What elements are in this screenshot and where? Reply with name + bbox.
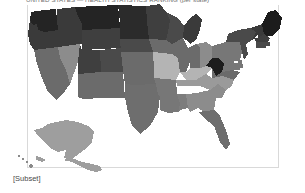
- state-RI[interactable]: [266, 42, 270, 46]
- state-AZ[interactable]: [78, 72, 103, 99]
- state-LA[interactable]: [158, 94, 180, 113]
- state-ME[interactable]: [262, 10, 282, 36]
- state-MI[interactable]: [183, 14, 202, 44]
- state-CO[interactable]: [100, 48, 123, 72]
- state-WY[interactable]: [82, 28, 121, 50]
- choropleth-map: [0, 0, 305, 193]
- us-states-map: [0, 0, 305, 193]
- state-MN[interactable]: [146, 4, 170, 40]
- state-HI-kauai[interactable]: [18, 155, 20, 157]
- state-HI-maui[interactable]: [26, 161, 29, 164]
- state-AK[interactable]: [34, 120, 94, 160]
- state-CT[interactable]: [256, 42, 266, 48]
- state-NM[interactable]: [101, 72, 125, 98]
- state-HI-hawaii[interactable]: [29, 164, 33, 168]
- state-AL[interactable]: [186, 93, 198, 112]
- state-AK-aleutian-2[interactable]: [36, 156, 46, 162]
- state-FL[interactable]: [198, 110, 230, 150]
- map-figure: UNITED STATES — HEALTH STATISTICS RANKIN…: [0, 0, 305, 193]
- state-SD[interactable]: [120, 22, 149, 39]
- state-OK[interactable]: [123, 70, 156, 85]
- state-TX[interactable]: [125, 84, 160, 134]
- state-ND[interactable]: [118, 5, 147, 22]
- state-KS[interactable]: [121, 52, 154, 70]
- state-NY[interactable]: [226, 28, 256, 44]
- state-NE[interactable]: [120, 39, 153, 52]
- state-IN[interactable]: [188, 44, 200, 68]
- state-HI-oahu[interactable]: [22, 158, 24, 160]
- subset-label: [Subset]: [13, 174, 41, 183]
- state-AK-aleutian-1[interactable]: [62, 158, 102, 172]
